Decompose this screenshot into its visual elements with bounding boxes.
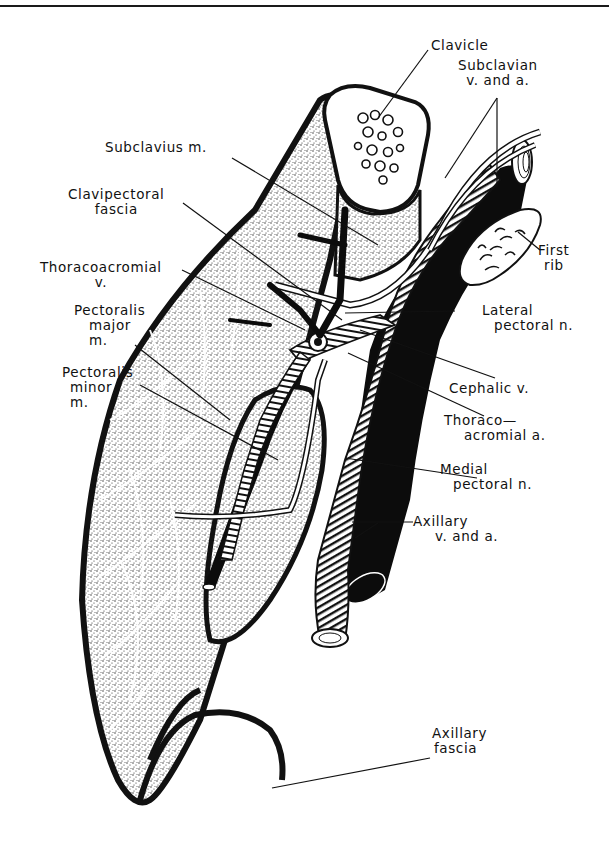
label-first-rib: First rib xyxy=(538,243,569,273)
label-text: m. xyxy=(62,395,133,410)
label-clavipectoral-fascia: Clavipectoral fascia xyxy=(68,187,164,217)
label-axillary-fascia: Axillary fascia xyxy=(432,726,487,756)
label-text: Pectoralis xyxy=(74,303,145,318)
label-text: Thoraco— xyxy=(444,413,546,428)
label-text: Lateral xyxy=(482,303,573,318)
label-thoracoacromial-vein: Thoracoacromial v. xyxy=(40,260,162,290)
label-text: Cephalic v. xyxy=(449,381,529,396)
label-text: Axillary xyxy=(432,726,487,741)
label-text: Subclavian xyxy=(458,58,538,73)
label-medial-pectoral-nerve: Medial pectoral n. xyxy=(440,462,532,492)
label-text: fascia xyxy=(68,202,164,217)
label-subclavian-vessels: Subclavian v. and a. xyxy=(458,58,538,88)
label-clavicle: Clavicle xyxy=(431,38,488,53)
label-text: Medial xyxy=(440,462,532,477)
label-axillary-vessels: Axillary v. and a. xyxy=(413,514,498,544)
label-text: v. and a. xyxy=(413,529,498,544)
label-text: major xyxy=(74,318,145,333)
label-text: v. xyxy=(40,275,162,290)
label-text: Thoracoacromial xyxy=(40,260,162,275)
label-text: Axillary xyxy=(413,514,498,529)
label-lateral-pectoral-nerve: Lateral pectoral n. xyxy=(482,303,573,333)
label-text: fascia xyxy=(432,741,487,756)
label-cephalic-vein: Cephalic v. xyxy=(449,381,529,396)
label-text: rib xyxy=(538,258,569,273)
label-text: Subclavius m. xyxy=(105,140,207,155)
label-text: pectoral n. xyxy=(440,477,532,492)
label-pectoralis-major: Pectoralis major m. xyxy=(74,303,145,348)
label-text: minor xyxy=(62,380,133,395)
label-subclavius-muscle: Subclavius m. xyxy=(105,140,207,155)
label-text: First xyxy=(538,243,569,258)
label-thoracoacromial-artery: Thoraco— acromial a. xyxy=(444,413,546,443)
label-text: Clavicle xyxy=(431,38,488,53)
label-text: Clavipectoral xyxy=(68,187,164,202)
label-text: acromial a. xyxy=(444,428,546,443)
label-text: Pectoralis xyxy=(62,365,133,380)
label-pectoralis-minor: Pectoralis minor m. xyxy=(62,365,133,410)
label-text: m. xyxy=(74,333,145,348)
label-text: v. and a. xyxy=(458,73,538,88)
label-text: pectoral n. xyxy=(482,318,573,333)
